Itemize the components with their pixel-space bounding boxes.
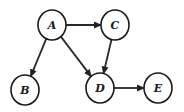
edge-a-to-d-arrow — [61, 37, 91, 77]
node-a: A — [38, 10, 66, 40]
node-d: D — [86, 73, 114, 103]
node-label: E — [153, 82, 163, 95]
directed-graph: ACBDE — [0, 0, 184, 112]
node-label: D — [94, 82, 105, 95]
node-label: B — [19, 84, 29, 97]
edge-c-to-d-arrow — [104, 40, 112, 74]
node-label: A — [47, 19, 57, 32]
node-label: C — [111, 19, 120, 32]
node-b: B — [11, 75, 39, 105]
node-c: C — [101, 10, 129, 40]
node-e: E — [144, 73, 172, 103]
edge-a-to-b-arrow — [31, 39, 47, 77]
